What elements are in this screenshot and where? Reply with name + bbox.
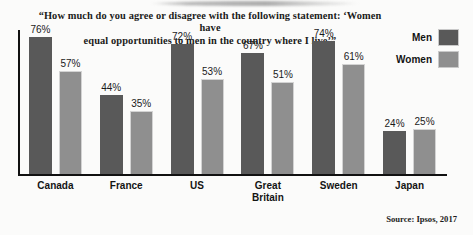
bar-men[interactable]: 44% (100, 30, 123, 174)
bar-value-label: 51% (273, 69, 293, 80)
bar-value-label: 44% (101, 82, 121, 93)
scan-artifact (150, 1, 360, 6)
bar-women[interactable]: 35% (130, 30, 153, 174)
bar-women[interactable]: 57% (59, 30, 82, 174)
bar-value-label: 61% (344, 51, 364, 62)
x-axis-label-canada: Canada (20, 180, 91, 192)
x-axis-label-great-britain: GreatBritain (233, 180, 304, 203)
plot-area: 76%57%44%35%72%53%67%51%74%61%24%25% (20, 30, 445, 174)
bar-group: 67%51% (233, 30, 304, 174)
x-axis-label-sweden: Sweden (303, 180, 374, 192)
bar-men[interactable]: 72% (171, 30, 194, 174)
bar-group: 74%61% (303, 30, 374, 174)
x-axis-label-line: France (91, 180, 162, 192)
source-note: Source: Ipsos, 2017 (386, 214, 457, 224)
bar-women[interactable]: 51% (271, 30, 294, 174)
chart-page: “How much do you agree or disagree with … (0, 0, 473, 235)
bar-rect[interactable] (201, 79, 224, 174)
bar-men[interactable]: 24% (383, 30, 406, 174)
bar-rect[interactable] (241, 53, 264, 174)
bar-rect[interactable] (342, 64, 365, 174)
bar-group: 24%25% (374, 30, 445, 174)
x-axis-label-line: Britain (233, 192, 304, 204)
bar-women[interactable]: 25% (413, 30, 436, 174)
bar-rect[interactable] (413, 129, 436, 174)
x-axis-label-line: Great (233, 180, 304, 192)
bar-value-label: 74% (314, 28, 334, 39)
bar-value-label: 53% (202, 66, 222, 77)
x-axis-label-japan: Japan (374, 180, 445, 192)
bar-rect[interactable] (271, 82, 294, 174)
x-axis-label-line: Canada (20, 180, 91, 192)
bar-value-label: 72% (172, 31, 192, 42)
bar-men[interactable]: 74% (312, 30, 335, 174)
bar-rect[interactable] (29, 37, 52, 174)
bar-value-label: 24% (385, 118, 405, 129)
bar-group: 72%53% (162, 30, 233, 174)
bar-value-label: 76% (30, 24, 50, 35)
bar-men[interactable]: 67% (241, 30, 264, 174)
bar-women[interactable]: 53% (201, 30, 224, 174)
bar-rect[interactable] (59, 71, 82, 174)
bar-value-label: 25% (415, 116, 435, 127)
x-axis-label-us: US (162, 180, 233, 192)
bar-rect[interactable] (130, 111, 153, 174)
bar-value-label: 57% (60, 58, 80, 69)
x-axis-label-line: Japan (374, 180, 445, 192)
bar-value-label: 35% (131, 98, 151, 109)
bar-rect[interactable] (312, 41, 335, 174)
bar-rect[interactable] (100, 95, 123, 174)
x-axis-line (18, 174, 447, 176)
bar-value-label: 67% (243, 40, 263, 51)
bar-rect[interactable] (171, 44, 194, 174)
bar-men[interactable]: 76% (29, 30, 52, 174)
x-axis-label-line: US (162, 180, 233, 192)
x-axis-label-france: France (91, 180, 162, 192)
bar-women[interactable]: 61% (342, 30, 365, 174)
x-axis-label-line: Sweden (303, 180, 374, 192)
bar-rect[interactable] (383, 131, 406, 174)
bar-group: 44%35% (91, 30, 162, 174)
bar-group: 76%57% (20, 30, 91, 174)
